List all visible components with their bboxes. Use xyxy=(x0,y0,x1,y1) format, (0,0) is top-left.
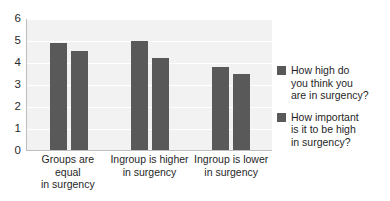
x-axis-labels: Groups are equalin surgencyIngroup is hi… xyxy=(27,153,272,191)
chart-legend: How high doyou think youare in surgency?… xyxy=(277,64,389,157)
y-axis-tick-0: 0 xyxy=(15,145,21,157)
x-axis-label-line1: Groups are equal xyxy=(28,153,108,178)
bar-g3-s2[interactable] xyxy=(233,74,250,150)
x-axis-label-line1: Ingroup is lower xyxy=(191,153,271,166)
x-axis-label-2: Ingroup is higherin surgency xyxy=(109,153,191,191)
legend-label-line3: are in surgency? xyxy=(291,89,369,102)
bar-g1-s1[interactable] xyxy=(50,43,67,150)
y-axis-tick-6: 6 xyxy=(15,13,21,25)
legend-label-1: How high doyou think youare in surgency? xyxy=(291,64,369,102)
bar-g2-s2[interactable] xyxy=(152,58,169,150)
x-axis-label-line2: in surgency xyxy=(110,166,190,179)
legend-swatch-series-1 xyxy=(277,66,286,75)
x-axis-label-line1: Ingroup is higher xyxy=(110,153,190,166)
plot-area xyxy=(26,19,272,151)
legend-item-2[interactable]: How importantis it to be highin surgency… xyxy=(277,111,389,149)
legend-label-line2: is it to be high xyxy=(291,123,359,136)
bar-groups xyxy=(28,19,272,150)
y-axis-tick-3: 3 xyxy=(15,79,21,91)
legend-label-2: How importantis it to be highin surgency… xyxy=(291,111,359,149)
bar-chart: 6543210 Groups are equalin surgencyIngro… xyxy=(0,0,390,201)
bar-g3-s1[interactable] xyxy=(212,67,229,150)
legend-item-1[interactable]: How high doyou think youare in surgency? xyxy=(277,64,389,102)
x-axis-label-1: Groups are equalin surgency xyxy=(27,153,109,191)
legend-swatch-series-2 xyxy=(277,113,286,122)
x-axis-label-line2: in surgency xyxy=(28,178,108,191)
y-axis: 6543210 xyxy=(0,12,24,158)
bar-group-3 xyxy=(191,19,272,150)
y-axis-tick-5: 5 xyxy=(15,35,21,47)
bar-g2-s1[interactable] xyxy=(131,41,148,150)
bar-g1-s2[interactable] xyxy=(71,51,88,150)
y-axis-tick-2: 2 xyxy=(15,101,21,113)
legend-label-line3: in surgency? xyxy=(291,136,359,149)
bar-group-1 xyxy=(28,19,109,150)
y-axis-tick-1: 1 xyxy=(15,123,21,135)
legend-label-line2: you think you xyxy=(291,77,369,90)
x-axis-label-3: Ingroup is lowerin surgency xyxy=(190,153,272,191)
x-axis-label-line2: in surgency xyxy=(191,166,271,179)
legend-label-line1: How important xyxy=(291,111,359,124)
legend-label-line1: How high do xyxy=(291,64,369,77)
y-axis-tick-4: 4 xyxy=(15,57,21,69)
bar-group-2 xyxy=(109,19,190,150)
